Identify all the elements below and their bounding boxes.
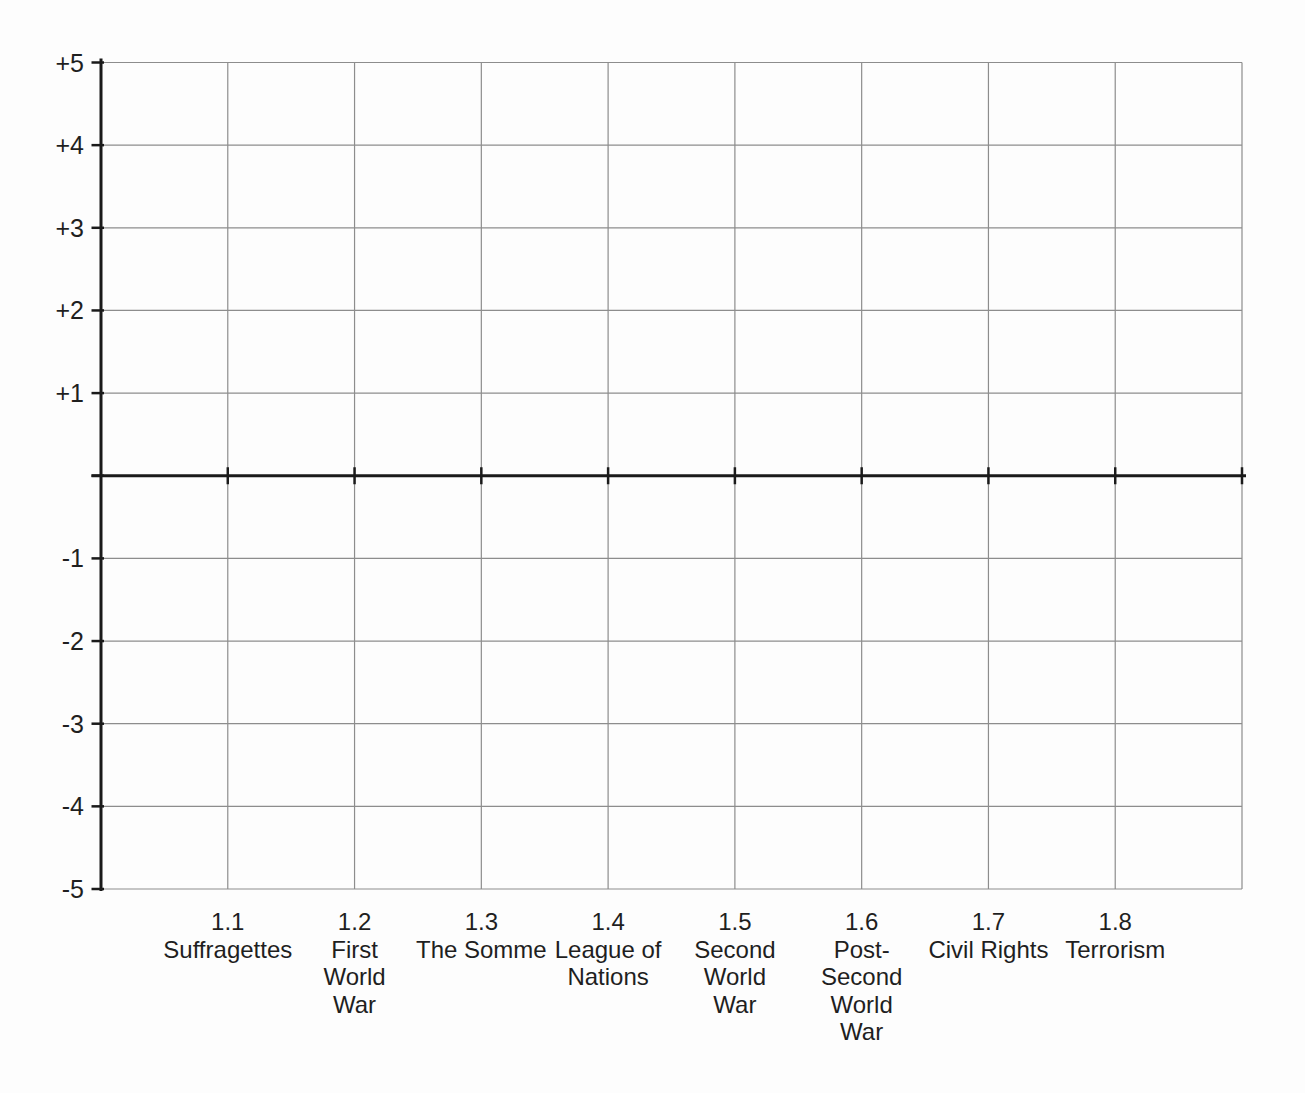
category-label-line: Second	[694, 936, 775, 963]
category-label-line: Suffragettes	[163, 936, 292, 963]
category-code: 1.3	[465, 908, 498, 935]
y-tick-label: -1	[62, 544, 84, 572]
category-code: 1.7	[972, 908, 1005, 935]
rating-grid-chart: +5+4+3+2+1-1-2-3-4-5 1.1Suffragettes1.2F…	[0, 0, 1305, 1093]
category-label-line: World	[831, 991, 893, 1018]
axis-lines	[92, 59, 1247, 892]
category-label-line: Nations	[567, 963, 648, 990]
y-axis-labels: +5+4+3+2+1-1-2-3-4-5	[55, 49, 84, 904]
category-label-line: World	[323, 963, 385, 990]
y-tick-label: -2	[62, 627, 84, 655]
y-tick-label: +5	[55, 49, 84, 77]
y-tick-label: -3	[62, 710, 84, 738]
category-code: 1.5	[718, 908, 751, 935]
category-label-line: Post-	[834, 936, 890, 963]
category-label: 1.1Suffragettes	[163, 908, 292, 963]
category-label-line: Second	[821, 963, 902, 990]
x-axis-labels: 1.1Suffragettes1.2FirstWorldWar1.3The So…	[163, 908, 1165, 1045]
category-label-line: War	[840, 1018, 883, 1045]
y-tick-label: +1	[55, 379, 84, 407]
category-label-line: League of	[555, 936, 662, 963]
category-code: 1.4	[591, 908, 624, 935]
category-label: 1.6Post-SecondWorldWar	[821, 908, 902, 1045]
category-label: 1.7Civil Rights	[928, 908, 1048, 963]
category-label-line: War	[713, 991, 756, 1018]
y-tick-label: +3	[55, 214, 84, 242]
category-label-line: Terrorism	[1065, 936, 1165, 963]
category-code: 1.8	[1099, 908, 1132, 935]
worksheet-page: +5+4+3+2+1-1-2-3-4-5 1.1Suffragettes1.2F…	[0, 0, 1305, 1093]
category-label-line: Civil Rights	[928, 936, 1048, 963]
category-label: 1.8Terrorism	[1065, 908, 1165, 963]
category-code: 1.1	[211, 908, 244, 935]
category-code: 1.2	[338, 908, 371, 935]
category-label-line: The Somme	[416, 936, 547, 963]
y-tick-label: -4	[62, 792, 84, 820]
category-label-line: First	[331, 936, 378, 963]
category-label: 1.5SecondWorldWar	[694, 908, 775, 1018]
category-label-line: War	[333, 991, 376, 1018]
category-label: 1.3The Somme	[416, 908, 547, 963]
category-label: 1.2FirstWorldWar	[323, 908, 385, 1018]
y-tick-label: -5	[62, 875, 84, 903]
y-tick-label: +4	[55, 131, 84, 159]
category-label: 1.4League ofNations	[555, 908, 662, 990]
y-tick-label: +2	[55, 296, 84, 324]
category-code: 1.6	[845, 908, 878, 935]
category-label-line: World	[704, 963, 766, 990]
